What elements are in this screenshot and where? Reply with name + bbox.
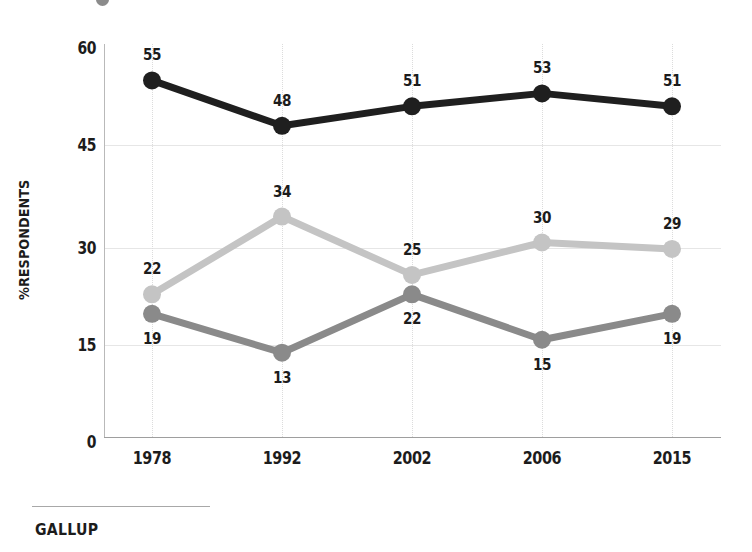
y-axis-tick-label: 60 bbox=[60, 38, 96, 58]
y-axis-tick-0: 0 bbox=[48, 432, 96, 452]
y-axis-tick-30: 30 bbox=[48, 238, 96, 258]
data-label-series-light-gray-2006: 30 bbox=[517, 208, 568, 227]
data-label-series-black-2015: 51 bbox=[647, 71, 698, 90]
data-label-series-black-1978: 55 bbox=[127, 45, 178, 64]
data-label-series-medium-gray-2006: 15 bbox=[517, 355, 568, 374]
x-axis-tick-2006: 2006 bbox=[491, 448, 593, 468]
x-axis-tick-2015: 2015 bbox=[621, 448, 723, 468]
data-label-series-light-gray-1992: 34 bbox=[257, 182, 308, 201]
y-axis-tick-label: 0 bbox=[60, 432, 96, 452]
x-axis-tick-1992: 1992 bbox=[231, 448, 333, 468]
series-plot-layer bbox=[0, 0, 752, 552]
y-axis-tick-label: 30 bbox=[60, 238, 96, 258]
gridline-vertical-2006 bbox=[542, 44, 544, 437]
data-label-series-light-gray-1978: 22 bbox=[127, 259, 178, 278]
data-label-series-medium-gray-1992: 13 bbox=[257, 368, 308, 387]
y-axis-tick-label: 15 bbox=[60, 335, 96, 355]
y-axis-tick-60: 60 bbox=[48, 38, 96, 58]
y-axis-tick-15: 15 bbox=[48, 335, 96, 355]
y-axis-tick-45: 45 bbox=[48, 135, 96, 155]
x-axis-tick-1978: 1978 bbox=[101, 448, 203, 468]
x-axis-tick-2002: 2002 bbox=[361, 448, 463, 468]
y-axis-line bbox=[104, 44, 105, 438]
x-axis-line bbox=[104, 437, 721, 438]
footer-brand-gallup: GALLUP bbox=[35, 520, 98, 539]
data-label-series-light-gray-2002: 25 bbox=[387, 240, 438, 259]
data-label-series-black-1992: 48 bbox=[257, 91, 308, 110]
legend-marker-remnant-icon bbox=[96, 0, 109, 6]
data-label-series-medium-gray-2002: 22 bbox=[387, 309, 438, 328]
gridline-vertical-2015 bbox=[672, 44, 674, 437]
data-label-series-black-2002: 51 bbox=[387, 71, 438, 90]
data-label-series-medium-gray-2015: 19 bbox=[647, 329, 698, 348]
data-label-series-black-2006: 53 bbox=[517, 58, 568, 77]
data-label-series-light-gray-2015: 29 bbox=[647, 214, 698, 233]
footer-divider bbox=[32, 506, 210, 507]
gridline-vertical-1978 bbox=[152, 44, 154, 437]
y-axis-title: %RESPONDENTS bbox=[16, 180, 32, 300]
chart-container: 60 45 30 15 0 %RESPONDENTS 1978 1992 200… bbox=[0, 0, 752, 552]
y-axis-tick-label: 45 bbox=[60, 135, 96, 155]
data-label-series-medium-gray-1978: 19 bbox=[127, 329, 178, 348]
